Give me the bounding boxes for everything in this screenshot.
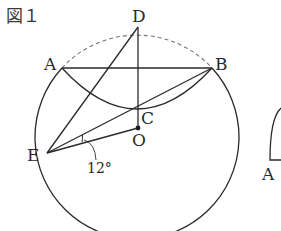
segment-EB [47, 68, 212, 153]
label-D: D [132, 6, 146, 26]
label-O: O [132, 130, 146, 150]
second-figure-label-A: A [261, 164, 275, 184]
geometry-figure: 図１ D A B C O E 12° A [0, 0, 281, 231]
folded-arc-ACB [62, 68, 212, 109]
angle-label: 12° [87, 160, 112, 176]
circle-dashed-arc [62, 35, 212, 68]
label-B: B [215, 54, 228, 74]
second-figure-arc [270, 108, 281, 160]
label-E: E [27, 145, 39, 165]
angle-arc-12deg [82, 135, 83, 143]
label-A: A [43, 54, 57, 74]
segment-EO [47, 128, 138, 153]
label-C: C [141, 108, 154, 128]
figure-title: 図１ [6, 6, 40, 26]
